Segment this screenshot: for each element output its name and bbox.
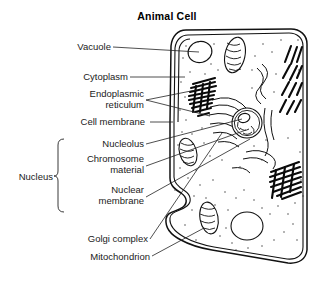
label-mitochondrion: Mitochondrion — [90, 251, 150, 262]
label-nuclear-line2: membrane — [99, 195, 144, 206]
label-golgi: Golgi complex — [88, 233, 148, 244]
animal-cell-figure: Animal Cell — [0, 0, 320, 281]
label-nucleus-group: Nucleus — [19, 171, 54, 182]
cell-diagram — [166, 29, 307, 263]
vesicle-bottom — [231, 212, 263, 240]
label-er-line2: reticulum — [105, 99, 144, 110]
label-chromosome-line1: Chromosome — [87, 153, 144, 164]
label-cytoplasm: Cytoplasm — [83, 71, 128, 82]
label-chromosome-line2: material — [110, 164, 144, 175]
label-nucleolus: Nucleolus — [102, 138, 144, 149]
label-er-line1: Endoplasmic — [90, 88, 145, 99]
page-title: Animal Cell — [137, 10, 196, 22]
label-vacuole: Vacuole — [77, 41, 111, 52]
label-nuclear-line1: Nuclear — [111, 184, 144, 195]
label-cell-membrane: Cell membrane — [81, 116, 145, 127]
